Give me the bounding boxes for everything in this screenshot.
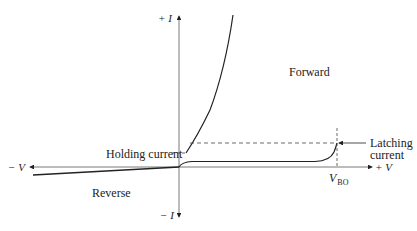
breakover-voltage-symbol: V [329,171,336,185]
iv-characteristic-diagram [0,0,417,231]
on-state-curve [186,15,233,153]
breakover-voltage-subscript: BO [337,178,348,187]
off-state-curve [179,143,337,167]
breakover-voltage-label: VBO [329,172,348,184]
x-positive-label: + V [375,162,392,173]
y-negative-label: − I [160,210,174,221]
reverse-region-label: Reverse [92,187,131,199]
latching-current-label-line2: current [370,149,404,161]
x-negative-label: − V [8,162,25,173]
holding-current-label: Holding current [106,148,182,160]
forward-region-label: Forward [289,66,330,78]
reverse-curve [33,167,179,175]
y-positive-label: + I [158,13,172,24]
